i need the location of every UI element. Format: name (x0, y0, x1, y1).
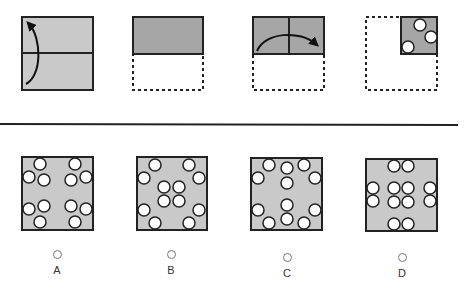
hole (38, 200, 50, 212)
hole (69, 158, 81, 170)
option-d-figure[interactable] (366, 159, 437, 231)
hole (65, 200, 77, 212)
hole (402, 182, 414, 194)
option-d-radio[interactable] (398, 253, 407, 262)
hole (65, 174, 77, 186)
step-1-full-square (22, 17, 93, 90)
hole (252, 172, 264, 184)
hole (138, 204, 150, 216)
option-b-label: B (161, 264, 181, 276)
hole (183, 159, 195, 171)
hole (263, 159, 275, 171)
option-a-figure[interactable] (22, 157, 93, 230)
punched-hole (425, 31, 437, 43)
step-2-folded-half (133, 17, 203, 90)
hole (193, 204, 205, 216)
punched-hole (402, 41, 414, 53)
hole (402, 218, 414, 230)
hole (402, 196, 414, 208)
hole (34, 216, 46, 228)
hole (263, 217, 275, 229)
option-c-label: C (277, 267, 297, 279)
hole (281, 162, 293, 174)
hole (138, 172, 150, 184)
hole (388, 182, 400, 194)
hole (298, 159, 310, 171)
hole (80, 171, 92, 183)
hole (23, 171, 35, 183)
hole (281, 199, 293, 211)
hole (309, 172, 321, 184)
hole (388, 196, 400, 208)
hole (281, 177, 293, 189)
hole (402, 160, 414, 172)
hole (23, 203, 35, 215)
hole (298, 217, 310, 229)
hole (149, 217, 161, 229)
step-3-fold-right (253, 17, 324, 90)
hole (367, 195, 379, 207)
hole (193, 172, 205, 184)
option-d-label: D (392, 267, 412, 279)
hole (424, 182, 436, 194)
hole (183, 217, 195, 229)
hole (158, 195, 170, 207)
hole (388, 160, 400, 172)
step-4-punched-quarter (366, 17, 437, 90)
dashed-outline (133, 54, 203, 90)
option-c-radio[interactable] (283, 253, 292, 262)
hole (38, 174, 50, 186)
hole (173, 181, 185, 193)
section-divider (0, 124, 458, 125)
hole (149, 159, 161, 171)
dashed-outline (253, 54, 324, 90)
hole (158, 181, 170, 193)
hole (69, 216, 81, 228)
hole (34, 158, 46, 170)
option-c-figure[interactable] (251, 158, 322, 230)
option-b-radio[interactable] (167, 250, 176, 259)
hole (388, 218, 400, 230)
hole (281, 213, 293, 225)
option-b-figure[interactable] (137, 157, 207, 230)
punched-hole (414, 19, 426, 31)
hole (80, 203, 92, 215)
puzzle-figure (0, 0, 473, 281)
hole (424, 195, 436, 207)
hole (252, 204, 264, 216)
hole (309, 204, 321, 216)
hole (173, 195, 185, 207)
option-a-radio[interactable] (53, 250, 62, 259)
option-a-label: A (47, 264, 67, 276)
hole (367, 182, 379, 194)
